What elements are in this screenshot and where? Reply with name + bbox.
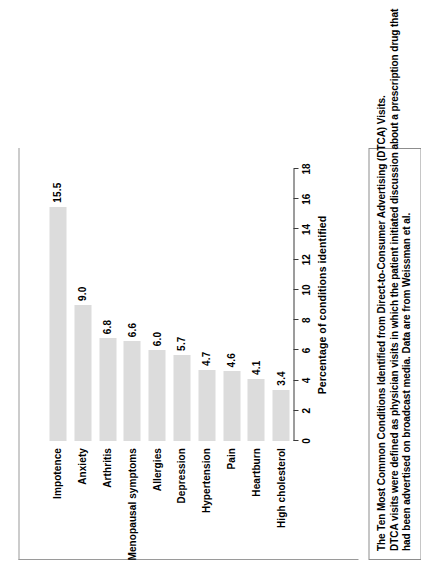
axis-tick-mark bbox=[293, 319, 298, 320]
axis-tick-label: 18 bbox=[300, 163, 311, 174]
axis-tick-label: 16 bbox=[300, 194, 311, 205]
axis-tick-label: 10 bbox=[300, 284, 311, 295]
category-label: Heartburn bbox=[250, 448, 261, 497]
bar-row: Heartburn4.1 bbox=[247, 169, 264, 441]
category-label: Pain bbox=[226, 448, 237, 470]
caption-line-2: DTCA visits were defined as physician vi… bbox=[388, 157, 401, 551]
bar bbox=[123, 341, 140, 441]
bar bbox=[247, 379, 264, 441]
category-label: Anxiety bbox=[77, 448, 88, 485]
category-label: High cholesterol bbox=[275, 448, 286, 528]
axis-tick-label: 2 bbox=[300, 408, 311, 414]
bar-value-label: 6.0 bbox=[151, 332, 162, 347]
bar bbox=[198, 370, 215, 441]
bar-row: High cholesterol3.4 bbox=[272, 169, 289, 441]
bar bbox=[148, 350, 165, 441]
axis-tick-label: 8 bbox=[300, 317, 311, 323]
category-label: Impotence bbox=[52, 448, 63, 499]
caption-line-1: The Ten Most Common Conditions Identifie… bbox=[375, 157, 388, 551]
bar-row: Pain4.6 bbox=[223, 169, 240, 441]
bar bbox=[223, 372, 240, 442]
bar bbox=[272, 390, 289, 441]
bar-value-label: 4.1 bbox=[250, 361, 261, 376]
axis-tick-mark bbox=[293, 228, 298, 229]
caption-line-3: had been advertised on broadcast media. … bbox=[400, 157, 413, 551]
bar-value-label: 9.0 bbox=[77, 286, 88, 301]
figure-caption-panel: The Ten Most Common Conditions Identifie… bbox=[368, 148, 421, 560]
bar-value-label: 15.5 bbox=[52, 183, 63, 203]
category-label: Hypertension bbox=[201, 448, 212, 513]
bar-value-label: 6.8 bbox=[102, 320, 113, 335]
bar-row: Arthritis6.8 bbox=[99, 169, 116, 441]
bar-row: Allergies6.0 bbox=[148, 169, 165, 441]
axis-tick-label: 14 bbox=[300, 224, 311, 235]
axis-tick-mark bbox=[293, 289, 298, 290]
bar bbox=[173, 355, 190, 441]
plot-area: Impotence15.5Anxiety9.0Arthritis6.8Menop… bbox=[45, 169, 293, 441]
bar bbox=[99, 338, 116, 441]
axis-tick-mark bbox=[293, 440, 298, 441]
axis-tick-mark bbox=[293, 410, 298, 411]
bar bbox=[74, 305, 91, 441]
axis-tick-label: 6 bbox=[300, 348, 311, 354]
bar-value-label: 4.7 bbox=[201, 351, 212, 366]
axis-tick-mark bbox=[293, 259, 298, 260]
category-label: Arthritis bbox=[102, 448, 113, 488]
category-label: Depression bbox=[176, 448, 187, 503]
axis-tick-mark bbox=[293, 168, 298, 169]
bar-row: Hypertension4.7 bbox=[198, 169, 215, 441]
bar-row: Menopausal symptoms6.6 bbox=[123, 169, 140, 441]
bar bbox=[49, 207, 66, 441]
axis-tick-label: 12 bbox=[300, 254, 311, 265]
bar-value-label: 5.7 bbox=[176, 336, 187, 351]
axis-tick-mark bbox=[293, 349, 298, 350]
axis-tick-label: 4 bbox=[300, 378, 311, 384]
category-label: Allergies bbox=[151, 448, 162, 491]
category-label: Menopausal symptoms bbox=[126, 448, 137, 560]
bar-value-label: 4.6 bbox=[226, 353, 237, 368]
axis-tick-label: 0 bbox=[300, 438, 311, 444]
chart-panel: Impotence15.5Anxiety9.0Arthritis6.8Menop… bbox=[18, 148, 358, 560]
axis-tick-mark bbox=[293, 380, 298, 381]
x-axis-title: Percentage of conditions identified bbox=[315, 169, 327, 441]
bar-value-label: 6.6 bbox=[126, 323, 137, 338]
bar-row: Impotence15.5 bbox=[49, 169, 66, 441]
bar-row: Depression5.7 bbox=[173, 169, 190, 441]
value-axis-line: 024681012141618 bbox=[293, 169, 294, 441]
bar-row: Anxiety9.0 bbox=[74, 169, 91, 441]
axis-tick-mark bbox=[293, 198, 298, 199]
bar-value-label: 3.4 bbox=[275, 371, 286, 386]
